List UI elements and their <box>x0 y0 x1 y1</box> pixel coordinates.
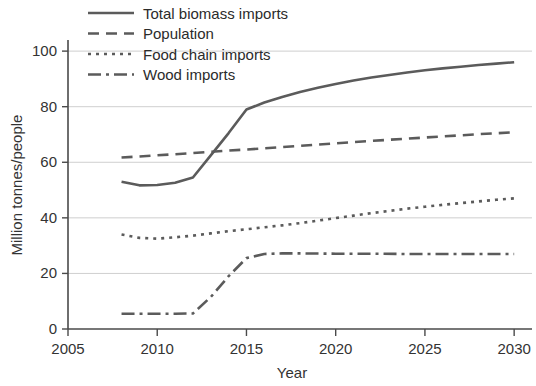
x-tick-label: 2030 <box>497 340 530 357</box>
y-tick-label: 60 <box>40 153 57 170</box>
y-tick-label: 80 <box>40 98 57 115</box>
line-chart: 020406080100 200520102015202020252030 Mi… <box>0 0 536 386</box>
y-tick-label: 20 <box>40 264 57 281</box>
y-axis-title: Million tonnes/people <box>8 115 25 256</box>
y-tick-label: 40 <box>40 209 57 226</box>
x-tick-label: 2015 <box>230 340 263 357</box>
x-axis-title: Year <box>277 364 307 381</box>
x-tick-label: 2025 <box>408 340 441 357</box>
y-tick-label: 0 <box>49 320 57 337</box>
legend-label: Wood imports <box>143 66 235 83</box>
x-tick-label: 2010 <box>141 340 174 357</box>
x-tick-label: 2005 <box>51 340 84 357</box>
legend-label: Population <box>143 25 214 42</box>
legend-label: Total biomass imports <box>143 5 288 22</box>
chart-canvas: 020406080100 200520102015202020252030 Mi… <box>0 0 536 386</box>
y-tick-label: 100 <box>32 42 57 59</box>
x-tick-label: 2020 <box>319 340 352 357</box>
legend-label: Food chain imports <box>143 46 271 63</box>
